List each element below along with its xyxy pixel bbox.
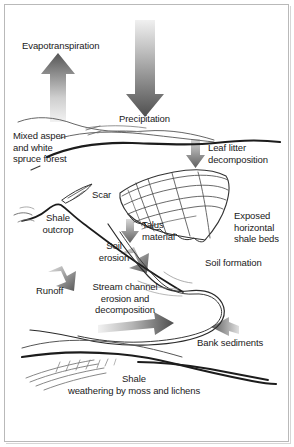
label-scar: Scar: [92, 189, 111, 201]
label-soil-formation: Soil formation: [205, 257, 262, 269]
label-exposed-shale-beds: Exposed horizontal shale beds: [234, 210, 279, 245]
label-stream-channel: Stream channel erosion and decomposition: [83, 281, 167, 316]
label-shale-outcrop: Shale outcrop: [30, 212, 86, 235]
label-shale-weathering-subtitle: weathering by moss and lichens: [48, 385, 220, 397]
label-runoff: Runoff: [36, 285, 63, 297]
label-shale-weathering-title: Shale: [80, 373, 188, 385]
label-mixed-forest: Mixed aspen and white spruce forest: [13, 130, 67, 165]
label-precipitation: Precipitation: [119, 113, 170, 125]
label-talus-material: Talus material: [142, 219, 175, 242]
label-bank-sediments: Bank sediments: [197, 337, 263, 349]
diagram-figure: Evapotranspiration Precipitation Mixed a…: [0, 0, 294, 447]
bank-sediments-arrow: [211, 317, 239, 336]
label-leaf-litter-decomposition: Leaf litter decomposition: [208, 142, 268, 165]
label-soil-erosion: Soil erosion: [94, 240, 134, 263]
label-evapotranspiration: Evapotranspiration: [22, 40, 99, 52]
evapotranspiration-arrow: [41, 53, 75, 122]
precipitation-arrow: [126, 20, 164, 117]
